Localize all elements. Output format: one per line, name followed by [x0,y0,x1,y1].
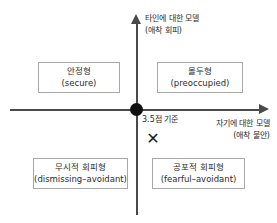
horizontal-axis-label: 자기에 대한 모델 (애착 불안) [196,118,270,141]
quadrant-box-dismissing-avoidant: 무시적 회피형 (dismissing–avoidant) [33,158,128,189]
cutoff-threshold-label: 3.5점 기준 [142,113,178,124]
quadrant-label-ko-fearful: 공포적 회피형 [173,162,224,173]
quadrant-label-en-secure: (secure) [62,78,97,89]
quadrant-box-secure: 안정형 (secure) [38,62,120,93]
quadrant-label-en-dismissing: (dismissing–avoidant) [34,174,127,185]
quadrant-label-en-fearful: (fearful–avoidant) [161,174,237,185]
quadrant-label-ko-dismissing: 무시적 회피형 [55,162,106,173]
quadrant-label-ko-secure: 안정형 [67,66,91,77]
quadrant-label-en-preoccupied: (preoccupied) [171,78,230,89]
score-position-x-marker: ✕ [145,131,161,147]
diagram-canvas: 타인에 대한 모델 (애착 회피) 자기에 대한 모델 (애착 불안) 3.5점… [0,0,277,223]
vertical-axis-label-line2: (애착 회피) [145,25,199,37]
quadrant-box-preoccupied: 몰두형 (preoccupied) [157,62,243,93]
vertical-axis-label-line1: 타인에 대한 모델 [145,14,199,23]
vertical-axis-label: 타인에 대한 모델 (애착 회피) [145,13,199,36]
quadrant-box-fearful-avoidant: 공포적 회피형 (fearful–avoidant) [152,158,245,189]
axis-arrow-up-icon [131,14,141,24]
horizontal-axis-label-line2: (애착 불안) [196,130,270,142]
horizontal-axis-label-line1: 자기에 대한 모델 [216,119,270,128]
quadrant-label-ko-preoccupied: 몰두형 [188,66,212,77]
axis-arrow-right-icon [259,104,269,114]
vertical-axis-line [136,22,138,215]
